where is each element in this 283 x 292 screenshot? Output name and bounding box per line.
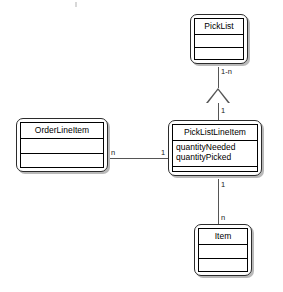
class-box-item[interactable]: Item [194,224,252,276]
multiplicity-picklistlineitem-left: 1 [161,149,165,157]
image-artifact-speck [75,2,77,7]
class-attributes-orderlineitem [21,139,103,155]
class-operations-picklist [195,48,243,59]
multiplicity-picklist-lower: 1 [221,107,225,115]
class-name-item: Item [199,229,247,245]
class-box-picklistlineitem[interactable]: PickListLineItem quantityNeeded quantity… [168,120,262,176]
edge-orderlineitem-picklistlineitem [110,158,168,159]
edge-picklist-generalization-lower [218,103,219,120]
class-inner-frame-picklist: PickList [194,18,244,60]
edge-picklist-generalization-upper [218,67,219,88]
attribute-quantity-needed: quantityNeeded [176,142,254,152]
multiplicity-orderlineitem-right: n [111,149,115,157]
class-inner-frame-orderlineitem: OrderLineItem [20,122,104,168]
class-box-orderlineitem[interactable]: OrderLineItem [16,118,108,172]
class-attributes-item [199,245,247,260]
class-inner-frame-item: Item [198,228,248,272]
multiplicity-picklistlineitem-bottom: 1 [221,181,225,189]
multiplicity-picklist-upper: 1-n [221,68,232,76]
multiplicity-item-top: n [221,214,225,222]
class-name-picklistlineitem: PickListLineItem [173,125,257,141]
class-inner-frame-picklistlineitem: PickListLineItem quantityNeeded quantity… [172,124,258,172]
uml-class-diagram: PickList 1-n 1 PickListLineItem quantity… [0,0,283,292]
class-operations-item [199,259,247,271]
class-attributes-picklist [195,35,243,49]
class-box-picklist[interactable]: PickList [190,14,248,64]
class-operations-picklistlineitem [173,167,257,171]
class-name-picklist: PickList [195,19,243,35]
attribute-quantity-picked: quantityPicked [176,152,254,162]
class-operations-orderlineitem [21,154,103,167]
edge-picklistlineitem-item [218,179,219,224]
class-attributes-picklistlineitem: quantityNeeded quantityPicked [173,141,257,168]
class-name-orderlineitem: OrderLineItem [21,123,103,139]
